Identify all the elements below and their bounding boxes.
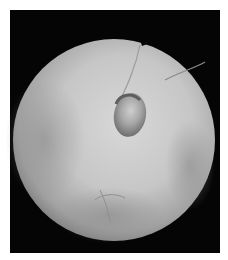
notch-marker [137, 28, 170, 46]
tissue-circle [5, 39, 215, 243]
endoscopic-view [0, 0, 228, 260]
